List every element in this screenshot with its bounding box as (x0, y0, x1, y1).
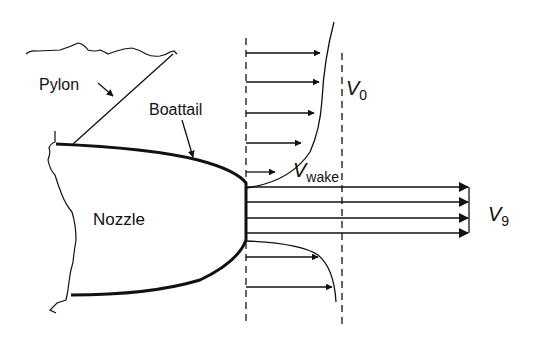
v9-subscript: 9 (501, 213, 509, 229)
vwake-main: V (293, 159, 306, 181)
freestream-velocity-symbol: V0 (346, 78, 367, 98)
pylon-pointer-arrow (98, 83, 113, 96)
boattail-pointer-arrow (182, 120, 193, 157)
v0-subscript: 0 (359, 87, 367, 103)
nozzle-contour (56, 144, 246, 295)
jet-exit-velocity-symbol: V9 (488, 204, 509, 224)
nozzle-label: Nozzle (93, 211, 145, 228)
nacelle-break-line (48, 131, 76, 313)
wing-break-line (26, 43, 177, 56)
wake-velocity-symbol: Vwake (293, 160, 339, 180)
boattail-label: Boattail (149, 102, 202, 118)
diagram-drawing (0, 0, 538, 342)
v0-main: V (346, 77, 359, 99)
pylon-line (73, 54, 173, 144)
lower-wake-profile-curve (246, 241, 336, 302)
v9-main: V (488, 203, 501, 225)
pylon-label: Pylon (39, 77, 79, 93)
vwake-subscript: wake (306, 169, 339, 185)
nozzle-flow-diagram: Pylon Boattail Nozzle V0 Vwake V9 (0, 0, 538, 342)
